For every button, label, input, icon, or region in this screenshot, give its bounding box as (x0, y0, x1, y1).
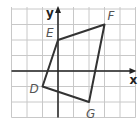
x-axis-label: x (130, 73, 138, 87)
vertex-label-E: E (46, 26, 54, 40)
coordinate-plane: xyDEFG (0, 0, 139, 124)
vertex-label-F: F (108, 9, 116, 23)
y-axis-label: y (46, 6, 54, 20)
vertex-label-D: D (30, 82, 39, 96)
vertex-label-G: G (86, 107, 95, 121)
